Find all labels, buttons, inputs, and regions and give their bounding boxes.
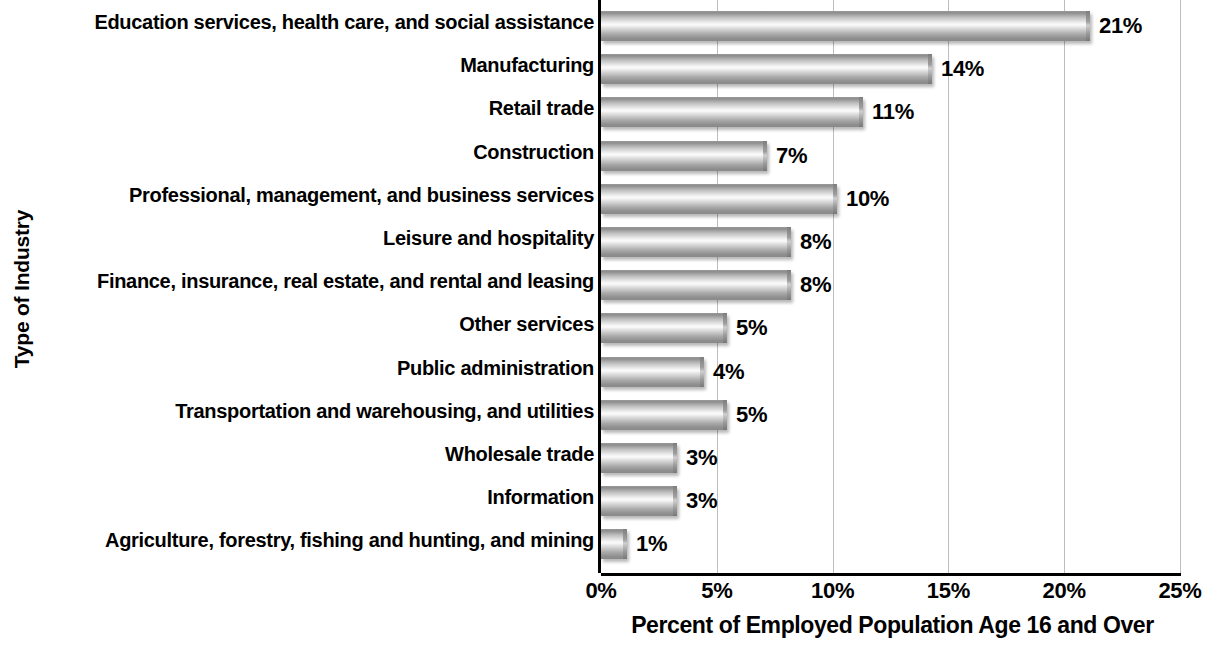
- bar-row: 21%: [601, 5, 1180, 48]
- y-axis-title: Type of Industry: [0, 0, 44, 578]
- bar-row: 8%: [601, 264, 1180, 307]
- x-axis-tick-label: 20%: [1043, 578, 1086, 604]
- bar-value-label: 5%: [736, 313, 767, 343]
- bar-row: 3%: [601, 437, 1180, 480]
- bar-row: 14%: [601, 48, 1180, 91]
- category-label: Finance, insurance, real estate, and ren…: [40, 271, 594, 291]
- bar-end-cap: [833, 184, 837, 214]
- bar-value-label: 5%: [736, 400, 767, 430]
- bar: [601, 97, 863, 127]
- bar-end-cap: [763, 141, 767, 171]
- category-label: Other services: [40, 314, 594, 334]
- bar-value-label: 14%: [941, 54, 984, 84]
- bar-row: 10%: [601, 178, 1180, 221]
- bar-row: 8%: [601, 221, 1180, 264]
- bar-end-cap: [723, 400, 727, 430]
- bar-value-label: 4%: [713, 357, 744, 387]
- bar-end-cap: [928, 54, 932, 84]
- bar-row: 4%: [601, 351, 1180, 394]
- bar-chart: Type of Industry Education services, hea…: [0, 0, 1219, 654]
- bar-row: 5%: [601, 307, 1180, 350]
- bar-end-cap: [859, 97, 863, 127]
- plot-area: 21%14%11%7%10%8%8%5%4%5%3%3%1%: [601, 0, 1180, 573]
- category-label: Agriculture, forestry, fishing and hunti…: [40, 530, 594, 550]
- bar-value-label: 21%: [1099, 11, 1142, 41]
- category-label-list: Education services, health care, and soc…: [44, 0, 598, 578]
- bar-row: 7%: [601, 135, 1180, 178]
- x-axis-title: Percent of Employed Population Age 16 an…: [601, 612, 1184, 639]
- bar-row: 1%: [601, 523, 1180, 566]
- bar: [601, 11, 1090, 41]
- bar-end-cap: [673, 486, 677, 516]
- bar-end-cap: [787, 270, 791, 300]
- bar-end-cap: [1086, 11, 1090, 41]
- bar: [601, 486, 677, 516]
- bar-end-cap: [787, 227, 791, 257]
- bar-value-label: 1%: [636, 529, 667, 559]
- bar: [601, 141, 767, 171]
- bar-value-label: 3%: [686, 486, 717, 516]
- x-axis-tick-label: 5%: [701, 578, 732, 604]
- bar: [601, 443, 677, 473]
- bar: [601, 54, 932, 84]
- bar-end-cap: [673, 443, 677, 473]
- bar: [601, 313, 727, 343]
- x-axis-line: [601, 573, 1181, 576]
- gridline: [1180, 0, 1181, 573]
- bar: [601, 270, 791, 300]
- category-label: Professional, management, and business s…: [40, 185, 594, 205]
- y-axis-title-label: Type of Industry: [10, 210, 34, 369]
- category-label: Information: [40, 487, 594, 507]
- category-label: Transportation and warehousing, and util…: [40, 401, 594, 421]
- bar: [601, 400, 727, 430]
- category-label: Wholesale trade: [40, 444, 594, 464]
- category-label: Education services, health care, and soc…: [40, 12, 594, 32]
- bar-end-cap: [723, 313, 727, 343]
- category-label: Construction: [40, 142, 594, 162]
- category-label: Manufacturing: [40, 55, 594, 75]
- x-axis-tick-label: 10%: [811, 578, 854, 604]
- category-label: Leisure and hospitality: [40, 228, 594, 248]
- bar: [601, 184, 837, 214]
- bar-end-cap: [700, 357, 704, 387]
- x-axis-tick-label: 25%: [1158, 578, 1201, 604]
- category-label: Public administration: [40, 358, 594, 378]
- bar: [601, 227, 791, 257]
- bar: [601, 357, 704, 387]
- bar: [601, 529, 627, 559]
- bar-row: 3%: [601, 480, 1180, 523]
- bar-row: 5%: [601, 394, 1180, 437]
- bar-value-label: 7%: [776, 141, 807, 171]
- bar-end-cap: [623, 529, 627, 559]
- x-axis-tick-label: 15%: [927, 578, 970, 604]
- x-axis-tick-label: 0%: [585, 578, 616, 604]
- bar-value-label: 3%: [686, 443, 717, 473]
- category-label: Retail trade: [40, 98, 594, 118]
- bar-value-label: 11%: [872, 97, 914, 127]
- bar-value-label: 8%: [800, 270, 831, 300]
- bar-row: 11%: [601, 91, 1180, 134]
- bar-value-label: 10%: [846, 184, 889, 214]
- bar-value-label: 8%: [800, 227, 831, 257]
